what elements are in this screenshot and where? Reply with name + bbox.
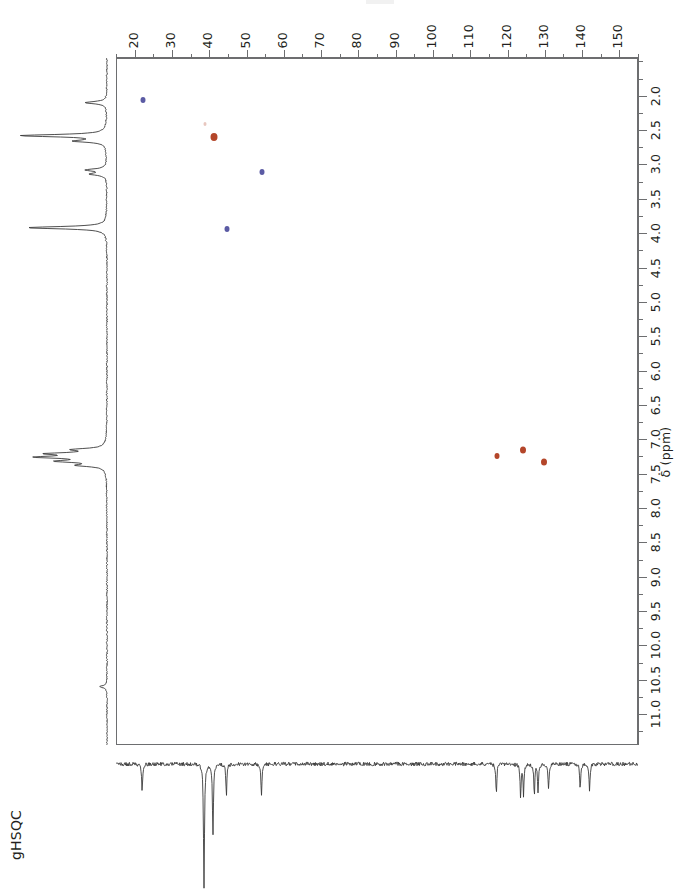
carbon-axis-major-tick <box>135 50 136 58</box>
carbon-axis-major-tick <box>619 50 620 58</box>
proton-axis-tick-label: 6.5 <box>650 395 663 415</box>
proton-axis-major-tick <box>638 302 647 303</box>
proton-axis-tick-label: 8.0 <box>650 498 663 518</box>
proton-axis-minor-tick <box>638 319 643 320</box>
proton-axis-major-tick <box>638 164 647 165</box>
cross-peak <box>203 122 206 126</box>
proton-axis-minor-tick <box>638 79 643 80</box>
proton-axis-tick-label: 11.0 <box>650 700 663 729</box>
cross-peak <box>520 446 526 453</box>
carbon-axis-tick-label: 50 <box>239 32 252 48</box>
proton-axis-major-tick <box>638 714 647 715</box>
carbon-axis-major-tick <box>321 50 322 58</box>
proton-axis-tick-label: 6.0 <box>650 360 663 380</box>
proton-axis-line <box>638 58 639 745</box>
carbon-axis-tick-label: 150 <box>612 24 625 48</box>
proton-axis-tick-label: 4.5 <box>650 257 663 277</box>
carbon-axis-major-tick <box>470 50 471 58</box>
carbon-axis-major-tick <box>172 50 173 58</box>
carbon-axis-tick-label: 110 <box>463 24 476 48</box>
carbon-axis-tick-label: 20 <box>127 32 140 48</box>
proton-axis-tick-label: 8.5 <box>650 532 663 552</box>
cross-peak <box>495 453 500 459</box>
proton-axis-tick-label: 10.0 <box>650 631 663 660</box>
carbon-chemical-shift-axis: 2030405060708090100110120130140150 <box>116 50 638 58</box>
proton-axis-major-tick <box>638 645 647 646</box>
proton-axis-minor-tick <box>638 456 643 457</box>
proton-axis-major-tick <box>638 336 647 337</box>
nmr-spectrum-figure: 2030405060708090100110120130140150 2.02.… <box>0 0 689 894</box>
spectrum-plot-area <box>116 58 638 745</box>
carbon-axis-major-tick <box>545 50 546 58</box>
carbon-axis-tick-label: 40 <box>202 32 215 48</box>
carbon-axis-major-tick <box>284 50 285 58</box>
proton-axis-major-tick <box>638 233 647 234</box>
proton-axis-tick-label: 10.5 <box>650 665 663 694</box>
proton-axis-minor-tick <box>638 250 643 251</box>
proton-axis-major-tick <box>638 268 647 269</box>
carbon-axis-tick-label: 100 <box>425 24 438 48</box>
carbon-axis-tick-label: 140 <box>575 24 588 48</box>
proton-1d-projection <box>0 58 114 745</box>
proton-axis-minor-tick <box>638 216 643 217</box>
proton-axis-minor-tick <box>638 525 643 526</box>
proton-axis-tick-label: 9.0 <box>650 566 663 586</box>
carbon-axis-major-tick <box>358 50 359 58</box>
proton-axis-minor-tick <box>638 594 643 595</box>
proton-axis-major-tick <box>638 371 647 372</box>
carbon-axis-major-tick <box>209 50 210 58</box>
proton-axis-tick-label: 3.5 <box>650 189 663 209</box>
cross-peak <box>141 97 146 103</box>
proton-axis-minor-tick <box>638 353 643 354</box>
proton-axis-major-tick <box>638 130 647 131</box>
carbon-axis-tick-label: 70 <box>314 32 327 48</box>
proton-axis-minor-tick <box>638 388 643 389</box>
carbon-axis-major-tick <box>396 50 397 58</box>
proton-axis-minor-tick <box>638 61 643 62</box>
proton-axis-minor-tick <box>638 113 643 114</box>
proton-axis-tick-label: 9.5 <box>650 601 663 621</box>
cross-peak <box>260 169 265 175</box>
carbon-1d-projection <box>116 752 638 892</box>
proton-axis-tick-label: 3.0 <box>650 154 663 174</box>
carbon-axis-major-tick <box>247 50 248 58</box>
proton-axis-minor-tick <box>638 285 643 286</box>
carbon-axis-tick-label: 30 <box>164 32 177 48</box>
proton-axis-minor-tick <box>638 491 643 492</box>
proton-axis-tick-label: 5.0 <box>650 292 663 312</box>
cross-peak <box>210 133 217 141</box>
proton-chemical-shift-axis: 2.02.53.03.54.04.55.05.56.06.57.07.58.08… <box>638 58 648 745</box>
proton-axis-minor-tick <box>638 663 643 664</box>
experiment-name-label: gHSQC <box>8 810 24 860</box>
proton-axis-title: δ (ppm) <box>658 427 673 478</box>
carbon-axis-major-tick <box>433 50 434 58</box>
proton-axis-minor-tick <box>638 560 643 561</box>
clipped-top-artifact <box>366 0 394 4</box>
proton-axis-minor-tick <box>638 628 643 629</box>
proton-axis-tick-label: 2.5 <box>650 120 663 140</box>
proton-axis-minor-tick <box>638 182 643 183</box>
proton-axis-minor-tick <box>638 731 643 732</box>
carbon-axis-tick-label: 60 <box>276 32 289 48</box>
proton-axis-major-tick <box>638 542 647 543</box>
carbon-axis-tick-label: 120 <box>500 24 513 48</box>
proton-axis-major-tick <box>638 405 647 406</box>
proton-axis-major-tick <box>638 577 647 578</box>
cross-peak <box>224 226 229 232</box>
proton-axis-minor-tick <box>638 697 643 698</box>
carbon-axis-tick-label: 90 <box>388 32 401 48</box>
proton-axis-major-tick <box>638 680 647 681</box>
proton-axis-tick-label: 4.0 <box>650 223 663 243</box>
carbon-axis-tick-label: 130 <box>537 24 550 48</box>
carbon-axis-tick-label: 80 <box>351 32 364 48</box>
proton-axis-minor-tick <box>638 422 643 423</box>
proton-axis-major-tick <box>638 96 647 97</box>
cross-peak <box>541 458 547 465</box>
proton-axis-tick-label: 5.5 <box>650 326 663 346</box>
proton-axis-major-tick <box>638 508 647 509</box>
proton-axis-major-tick <box>638 611 647 612</box>
proton-axis-major-tick <box>638 439 647 440</box>
proton-axis-tick-label: 2.0 <box>650 86 663 106</box>
proton-axis-minor-tick <box>638 147 643 148</box>
proton-axis-major-tick <box>638 474 647 475</box>
